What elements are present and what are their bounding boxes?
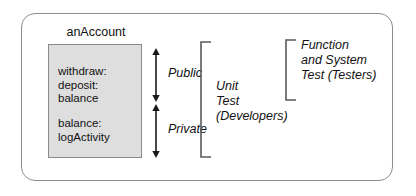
object-box: withdraw:deposit:balance balance:logActi… [48,44,142,158]
private-scope-arrow [150,104,162,158]
diagram-canvas: anAccount withdraw:deposit:balance balan… [0,0,416,196]
public-scope-arrow [150,48,162,102]
public-method-list: withdraw:deposit:balance [58,65,107,106]
unit-test-bracket [199,41,212,158]
object-name-label: anAccount [48,25,144,39]
private-method-list: balance:logActivity [58,117,110,144]
function-system-test-label: Functionand SystemTest (Testers) [301,38,377,83]
scope-label-public: Public [168,66,202,80]
unit-test-label: UnitTest(Developers) [216,79,288,124]
